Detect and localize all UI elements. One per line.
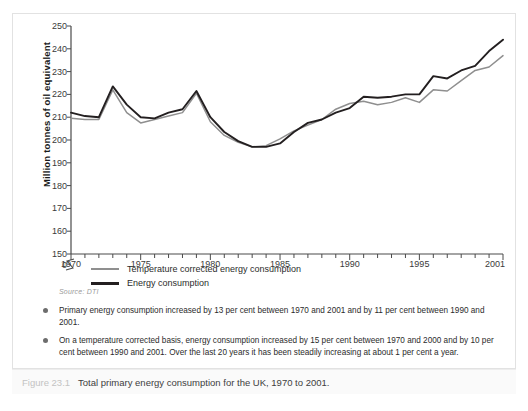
- note-bullet: On a temperature corrected basis, energy…: [41, 335, 503, 358]
- note-text: On a temperature corrected basis, energy…: [59, 336, 494, 357]
- figure-notes: Primary energy consumption increased by …: [41, 305, 503, 365]
- legend-label: Energy consumption: [127, 278, 209, 288]
- legend-line-swatch-icon: [91, 268, 119, 270]
- series-line-energy-consumption: [71, 40, 503, 147]
- source-note: Source: DTI: [59, 288, 99, 295]
- plot-area: 1501601701801902002102202302402500197019…: [71, 26, 503, 254]
- bullet-dot-icon: [43, 338, 48, 343]
- figure-page: Million tonnes of oil equivalent 1501601…: [0, 0, 528, 411]
- series-line-temperature-corrected: [71, 56, 503, 147]
- line-chart-svg: [71, 26, 503, 254]
- x-tick-label: 1970: [61, 259, 81, 269]
- chart-legend: Temperature corrected energy consumption…: [91, 263, 451, 291]
- x-tick-label: 2001: [485, 259, 505, 269]
- y-tick-label: 200: [52, 135, 67, 145]
- chart: Million tonnes of oil equivalent 1501601…: [13, 14, 517, 254]
- y-tick-label: 220: [52, 89, 67, 99]
- y-tick-label: 250: [52, 21, 67, 31]
- y-tick-label: 170: [52, 203, 67, 213]
- y-tick-label: 160: [52, 226, 67, 236]
- legend-label: Temperature corrected energy consumption: [127, 264, 301, 274]
- y-tick-label: 180: [52, 181, 67, 191]
- y-tick-label: 150: [52, 249, 67, 259]
- caption-number: Figure 23.1: [22, 377, 70, 388]
- note-text: Primary energy consumption increased by …: [59, 306, 484, 327]
- y-tick-label: 210: [52, 112, 67, 122]
- y-tick-label: 240: [52, 44, 67, 54]
- y-tick-label: 230: [52, 67, 67, 77]
- figure-caption: Figure 23.1 Total primary energy consump…: [12, 369, 516, 394]
- note-bullet: Primary energy consumption increased by …: [41, 305, 503, 328]
- legend-line-swatch-icon: [91, 282, 119, 285]
- figure-box: Million tonnes of oil equivalent 1501601…: [12, 13, 516, 369]
- caption-text: Total primary energy consumption for the…: [78, 377, 329, 388]
- legend-item-temperature_corrected: Temperature corrected energy consumption: [91, 263, 451, 275]
- bullet-dot-icon: [43, 308, 48, 313]
- y-tick-label: 190: [52, 158, 67, 168]
- legend-item-energy_consumption: Energy consumption: [91, 277, 451, 289]
- y-axis-label: Million tonnes of oil equivalent: [41, 20, 52, 210]
